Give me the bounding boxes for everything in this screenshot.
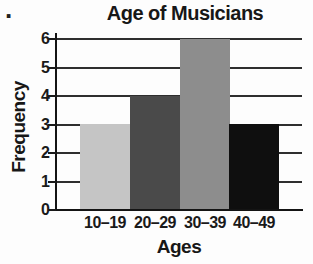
y-tick-label-0: 0 — [22, 201, 50, 219]
bar-40–49 — [229, 124, 279, 210]
y-tick-label-2: 2 — [22, 144, 50, 162]
y-tick-label-4: 4 — [22, 87, 50, 105]
y-tick-label-6: 6 — [22, 30, 50, 48]
list-marker: . — [5, 0, 12, 25]
x-axis-title: Ages — [56, 236, 302, 258]
x-tick-label-10–19: 10–19 — [80, 214, 130, 232]
bar-20–29 — [130, 96, 180, 210]
bar-30–39 — [180, 39, 230, 210]
y-tick-label-5: 5 — [22, 59, 50, 77]
chart-title: Age of Musicians — [60, 2, 310, 25]
gridline-6 — [56, 38, 302, 40]
gridline-5 — [56, 67, 302, 69]
y-tick-label-3: 3 — [22, 116, 50, 134]
y-axis-line — [55, 33, 57, 211]
y-tick-label-1: 1 — [22, 173, 50, 191]
x-axis-line — [55, 209, 303, 211]
x-tick-label-30–39: 30–39 — [180, 214, 230, 232]
x-tick-label-20–29: 20–29 — [130, 214, 180, 232]
bar-10–19 — [80, 124, 130, 210]
x-tick-label-40–49: 40–49 — [229, 214, 279, 232]
bar-chart: . Age of Musicians Frequency 0123456 10–… — [0, 0, 313, 264]
